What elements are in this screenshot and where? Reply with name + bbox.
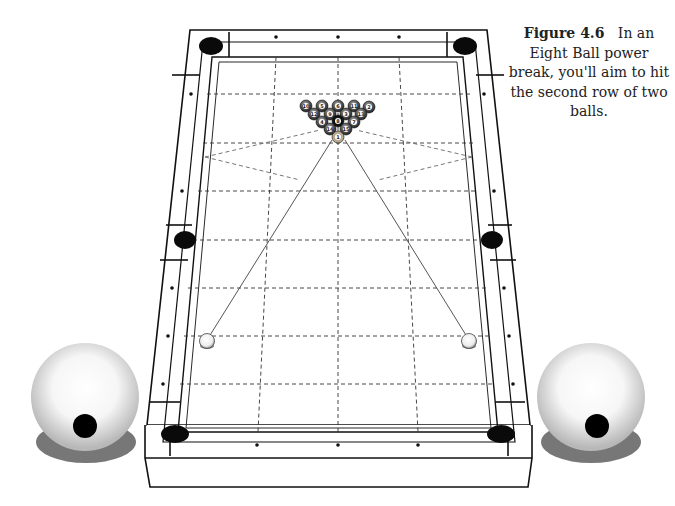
svg-text:10: 10: [303, 103, 310, 109]
svg-text:4: 4: [320, 119, 324, 125]
pocket-side-right: [481, 231, 503, 249]
enlarged-cue-ball-left: [31, 343, 139, 463]
pool-table: [145, 30, 532, 487]
enlarged-cue-ball-right: [537, 343, 645, 463]
svg-text:2: 2: [367, 104, 371, 110]
svg-text:11: 11: [351, 103, 358, 109]
aim-point-icon: [73, 414, 97, 438]
figure-caption: Figure 4.6 In an Eight Ball power break,…: [505, 24, 673, 122]
svg-text:7: 7: [352, 119, 356, 125]
pocket-top-left: [199, 37, 223, 55]
pocket-bottom-left: [161, 425, 189, 443]
figure-label: Figure 4.6: [524, 25, 605, 41]
svg-text:3: 3: [344, 111, 348, 117]
figure: 10 5 6 11 2 12 9 3 13 4 8 7 14 15 1: [0, 0, 675, 506]
pocket-bottom-right: [487, 425, 515, 443]
svg-text:8: 8: [336, 118, 340, 124]
svg-text:12: 12: [311, 111, 318, 117]
cue-ball-right: [462, 334, 477, 350]
svg-text:6: 6: [336, 103, 340, 109]
aim-point-icon: [585, 414, 609, 438]
cue-ball-left: [200, 334, 215, 350]
pocket-side-left: [174, 231, 196, 249]
svg-text:9: 9: [328, 111, 332, 117]
svg-text:1: 1: [336, 134, 340, 140]
svg-text:13: 13: [358, 111, 365, 117]
pocket-top-right: [453, 37, 477, 55]
svg-text:5: 5: [320, 103, 324, 109]
svg-text:14: 14: [327, 126, 334, 132]
svg-text:15: 15: [343, 126, 350, 132]
